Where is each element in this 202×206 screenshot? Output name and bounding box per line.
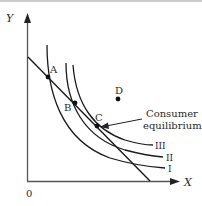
point-C-label: C [95, 112, 103, 123]
point-D-label: D [115, 85, 123, 96]
point-D [116, 97, 121, 102]
x-axis-arrow-icon [170, 178, 180, 185]
annotation-arrowhead-icon [100, 123, 109, 130]
annotation-arrow [106, 119, 142, 126]
indifference-curve-III [73, 65, 153, 145]
y-axis-label: Y [6, 12, 15, 25]
point-C [95, 124, 100, 129]
point-A [46, 75, 51, 80]
annotation-line1: Consumer [146, 108, 198, 119]
curve-III-label: III [155, 141, 166, 151]
y-axis-arrow-icon [24, 13, 31, 23]
point-B-label: B [64, 102, 71, 113]
annotation-line2: equilibrium [143, 120, 202, 131]
x-axis-label: X [183, 176, 193, 189]
curve-I-label: I [168, 164, 172, 174]
point-A-label: A [49, 64, 58, 75]
curve-II-label: II [166, 153, 174, 163]
point-B [73, 101, 78, 106]
indifference-diagram: Y X 0 A B C D III II I Consumer equilibr… [0, 0, 202, 206]
origin-label: 0 [26, 188, 32, 199]
